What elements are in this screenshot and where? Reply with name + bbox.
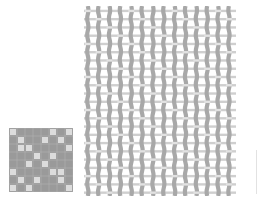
- divider-line: [256, 150, 257, 194]
- woven-cloth-simulation: [84, 6, 236, 196]
- weave-draft-pattern: [9, 128, 73, 192]
